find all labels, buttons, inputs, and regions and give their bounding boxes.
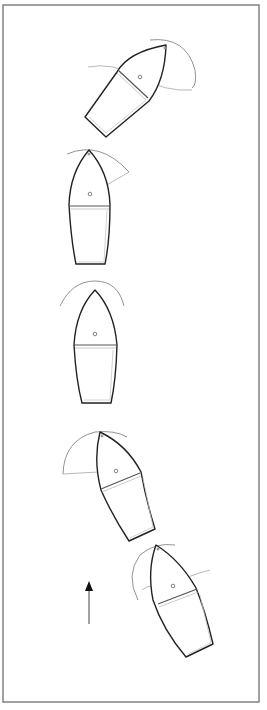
boat-5: [132, 544, 213, 657]
diagram-canvas: [0, 0, 267, 710]
hull-outline: [97, 432, 155, 541]
pivot-point: [114, 469, 118, 473]
bow-marker: [157, 548, 159, 550]
bow-marker: [88, 153, 90, 155]
pivot-point: [93, 332, 97, 336]
arrow-up-icon: [85, 581, 93, 591]
direction-arrow: [85, 581, 93, 624]
bow-marker: [164, 47, 166, 49]
hull-outline: [69, 150, 110, 264]
boat-3: [60, 281, 124, 403]
hull-outline: [85, 45, 166, 137]
boat-2: [67, 150, 129, 264]
hull-outline: [151, 545, 213, 657]
pivot-point: [171, 584, 175, 588]
pivot-point: [88, 192, 92, 196]
boat-1: [85, 40, 196, 137]
bow-marker: [101, 435, 103, 437]
pivot-point: [138, 75, 142, 79]
boat-4: [63, 432, 155, 541]
